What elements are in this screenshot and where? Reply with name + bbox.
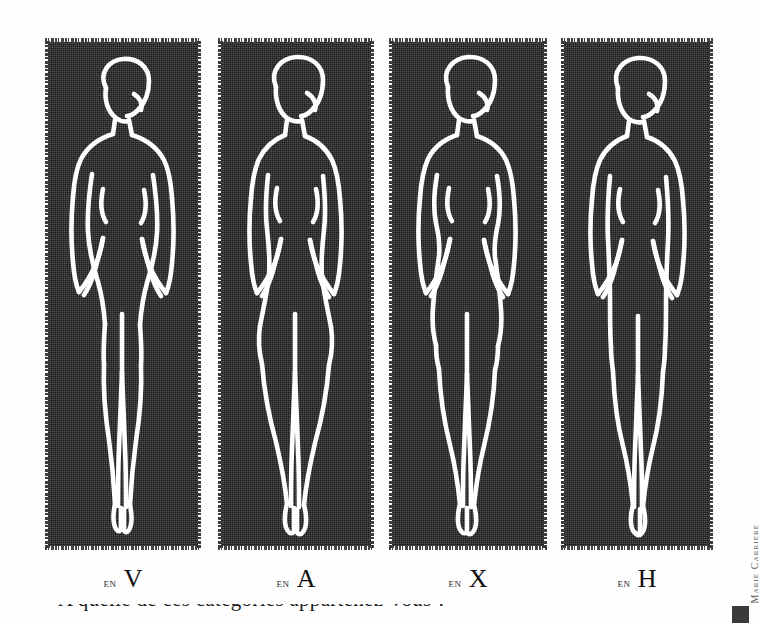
- caption-prefix-x: en: [449, 575, 462, 591]
- figure-h-drawing: [564, 42, 710, 546]
- photo-credit: Marie Carriere: [749, 524, 760, 604]
- caption-letter-a: A: [297, 566, 316, 592]
- caption-letter-x: X: [469, 566, 488, 592]
- figure-x-drawing: [392, 42, 544, 546]
- caption-prefix-a: en: [277, 575, 290, 591]
- silhouette-panel-a: [221, 42, 371, 546]
- silhouette-panel-row: [0, 0, 755, 560]
- caption-x: en X: [392, 566, 544, 596]
- caption-prefix-h: en: [618, 575, 631, 591]
- cut-off-body-text: A quelle de ces categories appartenez-vo…: [58, 604, 678, 625]
- caption-h: en H: [564, 566, 710, 596]
- silhouette-panel-h: [564, 42, 710, 546]
- corner-marker-block: [732, 606, 749, 623]
- cut-off-body-text-line: A quelle de ces categories appartenez-vo…: [58, 604, 678, 612]
- silhouette-panel-v: [48, 42, 198, 546]
- caption-prefix-v: en: [104, 575, 117, 591]
- caption-a: en A: [221, 566, 371, 596]
- caption-letter-h: H: [638, 566, 657, 592]
- caption-v: en V: [48, 566, 198, 596]
- caption-letter-v: V: [124, 566, 143, 592]
- silhouette-panel-x: [392, 42, 544, 546]
- figure-a-drawing: [221, 42, 371, 546]
- figure-v-drawing: [48, 42, 198, 546]
